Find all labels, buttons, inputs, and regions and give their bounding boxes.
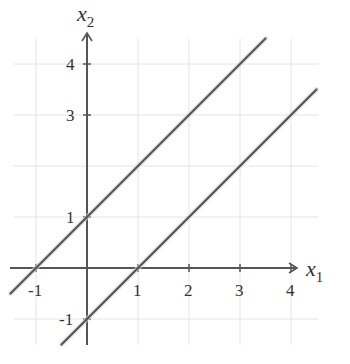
x-tick-label: 4: [286, 281, 295, 300]
y-tick-label: 3: [66, 106, 75, 125]
tick-labels: -11234-1134: [28, 55, 295, 329]
x-tick-label: 1: [133, 281, 142, 300]
x-tick-label: 2: [184, 281, 193, 300]
y-tick-label: -1: [59, 310, 73, 329]
data-lines: [11, 39, 317, 345]
axes: [10, 33, 297, 345]
y-tick-label: 1: [66, 208, 75, 227]
x-tick-label: -1: [28, 281, 42, 300]
y-tick-label: 4: [66, 55, 75, 74]
x-tick-label: 3: [235, 281, 244, 300]
x-axis-label: x1: [305, 256, 323, 285]
y-axis-label: x2: [76, 1, 94, 30]
chart: -11234-1134 x1 x2: [0, 0, 350, 364]
grid-lines: [14, 39, 319, 345]
